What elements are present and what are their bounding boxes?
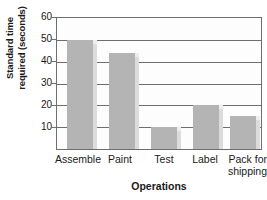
y-tick-label-10: 10	[30, 122, 52, 132]
bar-shadow-right	[219, 109, 223, 149]
y-tick-label-40: 40	[30, 56, 52, 66]
bar-test	[151, 127, 177, 149]
bar-assemble	[67, 40, 93, 149]
y-axis-title-line-1: Standard time	[4, 0, 16, 112]
y-tick-label-60: 60	[30, 12, 52, 22]
y-tick-label-20: 20	[30, 100, 52, 110]
bar-shadow-right	[93, 44, 97, 149]
bar-paint	[109, 53, 135, 149]
x-tick-label-pack-line-1: Pack for	[228, 153, 267, 165]
x-tick-label-pack-for-shipping: Pack forshipping	[215, 153, 267, 177]
bar-chart: Standard time required (seconds) 60 50 4…	[0, 0, 267, 200]
y-axis-tick-labels: 60 50 40 30 20 10	[28, 0, 52, 200]
y-tick-label-30: 30	[30, 78, 52, 88]
x-tick-label-pack-line-2: shipping	[228, 165, 267, 177]
x-tick-label-paint: Paint	[95, 153, 145, 165]
bar-shadow-right	[177, 131, 181, 149]
y-axis-title-line-2: required (seconds)	[16, 0, 28, 112]
bar-pack-for-shipping	[230, 116, 256, 149]
bar-label	[193, 105, 219, 149]
x-axis-title: Operations	[56, 180, 262, 192]
plot-area	[56, 17, 262, 150]
y-tick-label-50: 50	[30, 34, 52, 44]
bar-shadow-right	[135, 57, 139, 149]
bar-shadow-right	[256, 120, 260, 149]
